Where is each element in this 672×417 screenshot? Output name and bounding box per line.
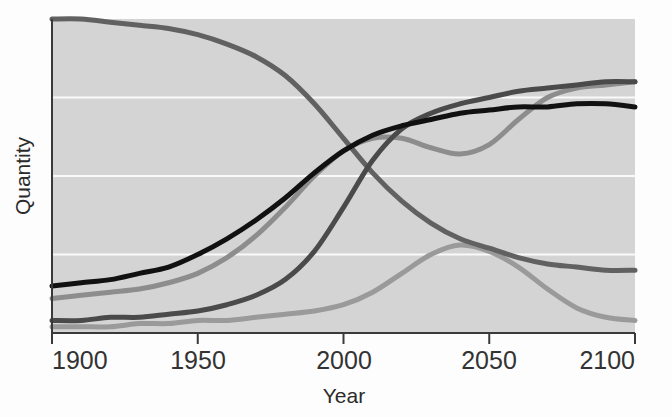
x-tick-label-2050: 2050 xyxy=(461,346,517,374)
x-tick-label-1900: 1900 xyxy=(52,346,108,374)
x-tick-marks xyxy=(52,333,635,344)
x-tick-label-1950: 1950 xyxy=(170,346,226,374)
chart-figure: 1900 1950 2000 2050 2100 Year Quantity xyxy=(0,0,672,417)
y-axis-title: Quantity xyxy=(11,136,34,215)
line-chart: 1900 1950 2000 2050 2100 Year Quantity xyxy=(0,0,672,417)
x-tick-label-2100: 2100 xyxy=(579,346,635,374)
x-axis-title: Year xyxy=(323,384,365,407)
x-tick-label-2000: 2000 xyxy=(316,346,372,374)
